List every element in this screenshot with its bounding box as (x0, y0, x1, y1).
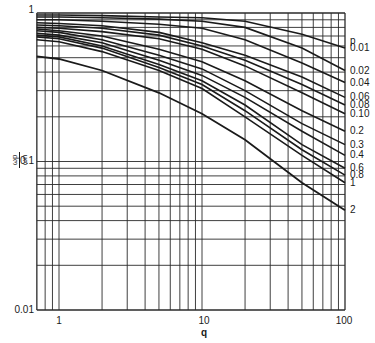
curve-label: 2 (350, 205, 356, 215)
curve-p-0.04 (37, 20, 345, 83)
log-log-chart (0, 0, 375, 343)
curve-group (37, 15, 345, 210)
curve-label: 0.4 (350, 150, 364, 160)
x-axis-title: q (189, 328, 219, 338)
curve-label: 0.02 (350, 66, 369, 76)
x-tick-10: 10 (189, 316, 219, 326)
y-title-denominator: ωn (20, 152, 29, 168)
curve-label: 0.01 (350, 43, 369, 53)
y-tick-1: 1 (0, 5, 34, 15)
y-title-numerator: ωp (10, 152, 20, 168)
grid-lines (37, 13, 345, 310)
curve-label: 1 (350, 178, 356, 188)
x-tick-100: 100 (329, 316, 359, 326)
x-tick-1: 1 (44, 316, 74, 326)
curve-p-0.4 (37, 33, 345, 155)
curve-label: 0.3 (350, 140, 364, 150)
y-tick-0.01: 0.01 (0, 305, 34, 315)
y-axis-title: ωp ωn (10, 152, 30, 168)
curve-label: 0.10 (350, 109, 369, 119)
curve-label: 0.2 (350, 126, 364, 136)
curve-label: 0.04 (350, 78, 369, 88)
